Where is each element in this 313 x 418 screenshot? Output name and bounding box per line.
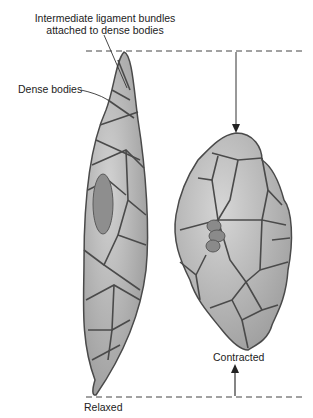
top-arrow-icon xyxy=(232,52,240,133)
nucleus-relaxed xyxy=(93,174,113,234)
ligament-bundles-label: Intermediate ligament bundles attached t… xyxy=(30,12,180,36)
relaxed-label: Relaxed xyxy=(84,401,123,413)
smooth-muscle-diagram xyxy=(0,0,313,418)
contracted-label: Contracted xyxy=(213,351,264,363)
ligament-bundles-label-line2: attached to dense bodies xyxy=(30,24,180,36)
ligament-bundles-label-line1: Intermediate ligament bundles xyxy=(30,12,180,24)
dense-bodies-label: Dense bodies xyxy=(18,83,82,95)
contracted-cell xyxy=(175,133,292,350)
dense-bodies-leader-line xyxy=(81,90,108,100)
bottom-arrow-icon xyxy=(231,364,239,396)
relaxed-cell xyxy=(84,52,148,395)
